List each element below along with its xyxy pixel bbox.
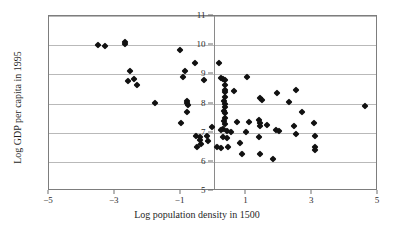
data-point [236,139,243,146]
gridline-y-7 [49,133,376,134]
y-tick-label-8: 8 [201,98,209,108]
x-tick-label-1: −3 [109,195,119,205]
data-point [216,60,223,67]
x-tick-label-5: 5 [375,195,380,205]
x-tick-label-4: 3 [309,195,314,205]
gridline-y-6 [49,162,376,163]
gridline-y-8 [49,104,376,105]
x-tick-label-2: −1 [175,195,185,205]
x-tick-mark-5 [377,190,378,194]
data-point [151,99,158,106]
x-tick-mark-0 [48,190,49,194]
gridline-y-11 [49,16,376,17]
data-point [238,151,245,158]
data-point [291,123,298,130]
data-point [245,118,252,125]
data-point [205,138,212,145]
plot-area [48,15,377,190]
data-point [176,47,183,54]
data-point [311,120,318,127]
y-tick-label-11: 11 [197,10,209,20]
data-point [224,144,231,151]
data-point [293,87,300,94]
y-tick-label-10: 10 [197,39,209,49]
x-tick-label-0: −5 [43,195,53,205]
gridline-y-9 [49,74,376,75]
data-point [299,109,306,116]
y-tick-label-9: 9 [201,68,209,78]
data-point [311,133,318,140]
data-point [286,99,293,106]
x-axis-label: Log population density in 1500 [0,209,394,220]
data-point [243,128,250,135]
scatter-chart-figure: 567891011 −5−3−1135 Log population densi… [0,0,394,233]
data-point [230,88,237,95]
data-point [101,43,108,50]
data-point [259,96,266,103]
data-point [257,150,264,157]
data-point [255,133,262,140]
zero-vertical-axis [214,16,215,189]
x-tick-mark-4 [311,190,312,194]
data-point [183,108,190,115]
y-tick-label-7: 7 [201,127,209,137]
data-point [217,144,224,151]
y-tick-label-6: 6 [201,156,209,166]
data-point [263,122,270,129]
y-axis-label: Log GDP per capita in 1995 [12,28,23,188]
y-tick-label-5: 5 [201,185,209,195]
x-tick-label-3: 1 [243,195,248,205]
data-point [177,120,184,127]
data-point [134,82,141,89]
data-point [293,130,300,137]
data-point [95,41,102,48]
data-point [273,89,280,96]
x-tick-mark-1 [113,190,114,194]
x-tick-mark-3 [245,190,246,194]
data-point [233,118,240,125]
x-tick-mark-2 [179,190,180,194]
data-point [227,129,234,136]
data-point [223,134,230,141]
data-point [192,60,199,67]
